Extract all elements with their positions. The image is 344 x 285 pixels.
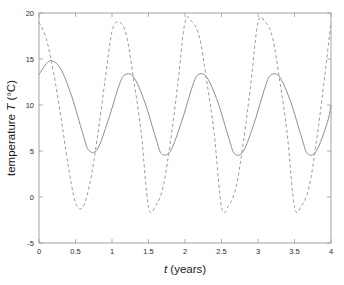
y-tick-label-0: -5: [27, 239, 34, 248]
y-axis-label: temperature T (°C): [5, 80, 17, 176]
x-tick-label-7: 3.5: [289, 247, 299, 256]
x-tick-label-1: 0.5: [70, 247, 80, 256]
x-tick-label-5: 2.5: [216, 247, 226, 256]
y-tick-label-4: 15: [26, 55, 34, 64]
y-axis-units: (°C): [5, 80, 17, 104]
x-axis-label: t (years): [164, 263, 206, 275]
plot-area-background: [39, 13, 331, 243]
x-tick-label-2: 1: [110, 247, 114, 256]
y-tick-label-1: 0: [30, 193, 34, 202]
x-tick-label-8: 4: [329, 247, 333, 256]
y-tick-label-3: 10: [26, 101, 34, 110]
x-axis-units: (years): [167, 263, 206, 275]
x-tick-label-4: 2: [183, 247, 187, 256]
y-tick-label-5: 20: [26, 9, 34, 18]
y-axis-label-prefix: temperature: [5, 111, 17, 176]
temperature-line-chart: 00.511.522.533.54 -505101520 t (years) t…: [0, 0, 344, 285]
x-tick-label-3: 1.5: [143, 247, 153, 256]
x-tick-label-6: 3: [256, 247, 260, 256]
y-tick-label-2: 5: [30, 147, 34, 156]
x-tick-label-0: 0: [37, 247, 41, 256]
